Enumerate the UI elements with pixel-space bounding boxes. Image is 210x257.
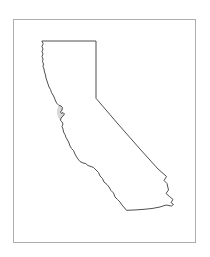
- state-outline-layer[interactable]: [42, 41, 174, 210]
- california-state-boundary[interactable]: [42, 41, 174, 210]
- map-figure: California state outline California: [0, 0, 210, 257]
- california-map-svg[interactable]: [0, 0, 210, 257]
